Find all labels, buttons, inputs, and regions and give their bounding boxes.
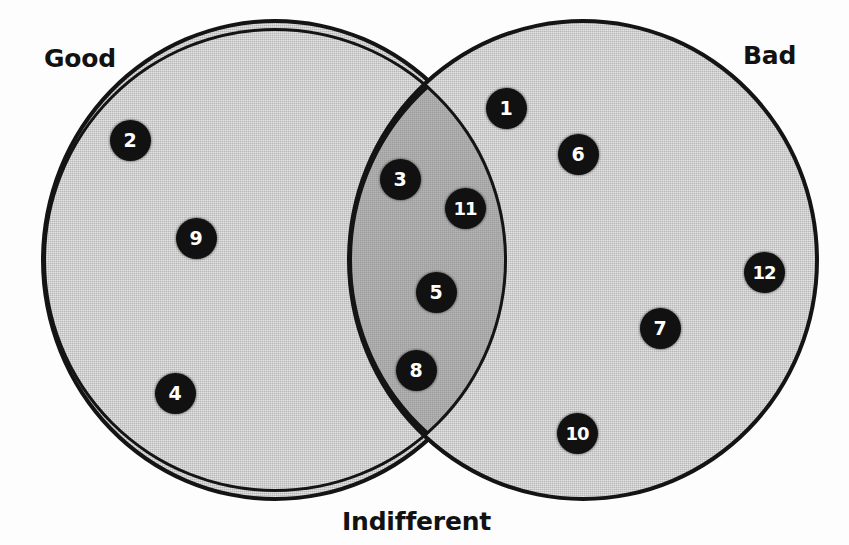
- set-label-bad: Bad: [743, 41, 796, 70]
- venn-marker-1[interactable]: 1: [486, 88, 527, 129]
- venn-marker-7[interactable]: 7: [640, 308, 681, 349]
- venn-diagram-figure: Good Bad Indifferent 123456789101112: [0, 0, 849, 545]
- venn-marker-8[interactable]: 8: [396, 350, 437, 391]
- venn-marker-3[interactable]: 3: [380, 159, 421, 200]
- venn-marker-10[interactable]: 10: [557, 413, 598, 454]
- venn-marker-5[interactable]: 5: [416, 272, 457, 313]
- venn-marker-2[interactable]: 2: [110, 120, 151, 161]
- set-label-indifferent-text: Indifferent: [342, 507, 491, 536]
- venn-marker-4[interactable]: 4: [155, 373, 196, 414]
- venn-marker-11[interactable]: 11: [445, 188, 486, 229]
- venn-marker-6[interactable]: 6: [558, 134, 599, 175]
- set-label-indifferent: Indifferent: [0, 507, 849, 536]
- venn-marker-9[interactable]: 9: [176, 218, 217, 259]
- venn-marker-12[interactable]: 12: [744, 252, 785, 293]
- set-label-good: Good: [44, 44, 116, 73]
